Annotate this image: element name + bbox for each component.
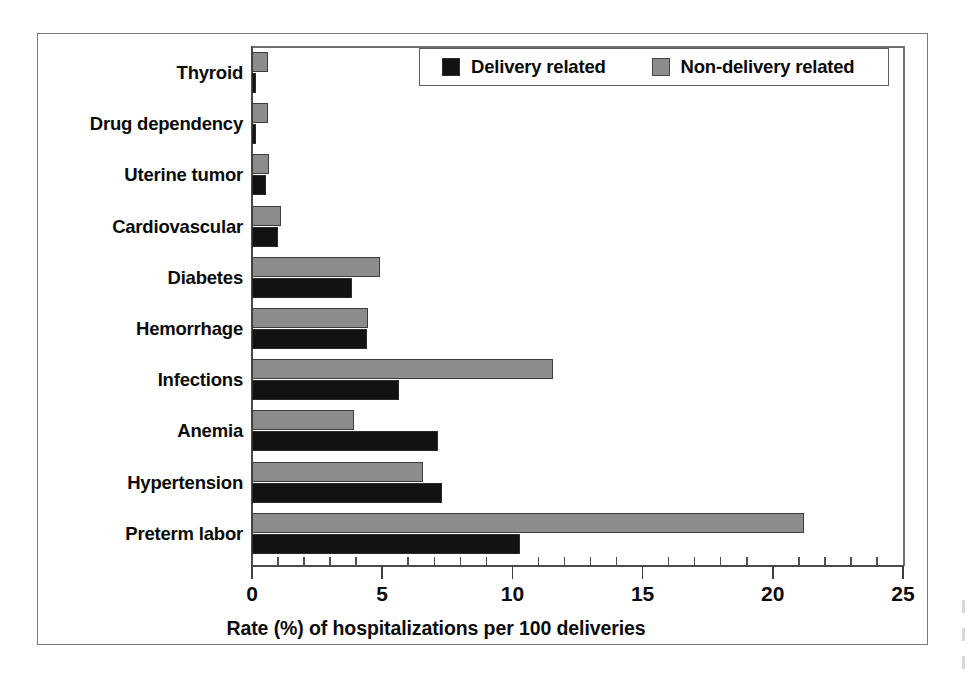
legend-label-delivery: Delivery related (471, 56, 606, 78)
bar-non-delivery-related (252, 359, 553, 379)
x-axis-title-text: Rate (%) of hospitalizations per 100 del… (226, 617, 645, 640)
x-tick-minor (590, 557, 592, 565)
x-axis-line (251, 565, 904, 567)
x-tick-label: 15 (631, 582, 654, 606)
x-tick-minor (668, 557, 670, 565)
bar-non-delivery-related (252, 206, 281, 226)
bar-non-delivery-related (252, 513, 804, 533)
bar-non-delivery-related (252, 52, 268, 72)
x-tick-major (251, 566, 253, 579)
category-label: Uterine tumor (124, 164, 243, 186)
bar-delivery-related (252, 534, 520, 554)
x-tick-label: 10 (501, 582, 524, 606)
x-tick-minor (538, 557, 540, 565)
category-label: Thyroid (177, 62, 243, 84)
x-tick-minor (303, 557, 305, 565)
x-tick-minor (329, 557, 331, 565)
x-tick-minor (694, 557, 696, 565)
page-edge-artifact (962, 656, 965, 669)
x-tick-minor (407, 557, 409, 565)
x-tick-label: 20 (761, 582, 784, 606)
page-edge-artifact (962, 600, 965, 613)
bar-non-delivery-related (252, 462, 423, 482)
legend-swatch-delivery (442, 58, 460, 76)
bar-delivery-related (252, 483, 442, 503)
bar-non-delivery-related (252, 103, 268, 123)
x-tick-label: 5 (376, 582, 388, 606)
x-tick-minor (850, 557, 852, 565)
bar-delivery-related (252, 380, 399, 400)
x-tick-minor (746, 557, 748, 565)
category-label: Drug dependency (90, 113, 243, 135)
x-tick-label: 25 (891, 582, 914, 606)
x-tick-label: 0 (246, 582, 258, 606)
category-label: Anemia (177, 420, 243, 442)
x-tick-minor (616, 557, 618, 565)
legend-item-non-delivery: Non-delivery related (652, 56, 855, 78)
bar-delivery-related (252, 124, 256, 144)
category-label: Hypertension (127, 472, 243, 494)
bar-non-delivery-related (252, 308, 368, 328)
x-tick-major (772, 566, 774, 579)
chart-legend: Delivery related Non-delivery related (419, 48, 889, 86)
category-label: Diabetes (167, 267, 243, 289)
figure-container: ThyroidDrug dependencyUterine tumorCardi… (0, 0, 968, 685)
category-label: Hemorrhage (136, 318, 243, 340)
x-tick-minor (434, 557, 436, 565)
category-label: Infections (158, 369, 243, 391)
page-edge-artifact (962, 628, 965, 641)
x-tick-minor (876, 557, 878, 565)
x-tick-minor (460, 557, 462, 565)
bar-non-delivery-related (252, 410, 354, 430)
bar-non-delivery-related (252, 257, 380, 277)
x-tick-major (902, 566, 904, 579)
x-tick-minor (824, 557, 826, 565)
legend-swatch-non-delivery (652, 58, 670, 76)
category-label: Preterm labor (125, 523, 243, 545)
x-tick-minor (486, 557, 488, 565)
x-tick-major (512, 566, 514, 579)
x-tick-minor (564, 557, 566, 565)
legend-item-delivery: Delivery related (442, 56, 606, 78)
plot-right-border (903, 46, 905, 566)
x-tick-major (642, 566, 644, 579)
bar-delivery-related (252, 73, 256, 93)
bar-delivery-related (252, 175, 266, 195)
x-tick-major (381, 566, 383, 579)
bar-delivery-related (252, 329, 367, 349)
x-axis-title: Rate (%) of hospitalizations per 100 del… (0, 617, 968, 640)
category-label: Cardiovascular (112, 216, 243, 238)
legend-label-non-delivery: Non-delivery related (681, 56, 855, 78)
x-tick-minor (355, 557, 357, 565)
bar-delivery-related (252, 431, 438, 451)
bar-non-delivery-related (252, 154, 269, 174)
x-tick-minor (798, 557, 800, 565)
x-tick-minor (277, 557, 279, 565)
bar-delivery-related (252, 227, 278, 247)
x-tick-minor (720, 557, 722, 565)
bar-delivery-related (252, 278, 352, 298)
